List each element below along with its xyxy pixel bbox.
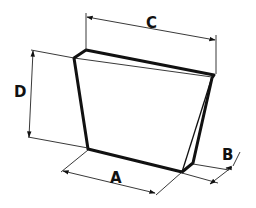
dimension-c: C: [86, 13, 216, 74]
b-extension-top: [193, 164, 229, 170]
label-a: A: [110, 169, 122, 187]
d-extension-bottom: [28, 137, 88, 148]
dimension-d: D: [14, 50, 88, 148]
a-extension-right: [156, 172, 182, 195]
block-outline: [74, 50, 214, 172]
label-b: B: [222, 146, 233, 164]
block-dimension-diagram: C D A B: [0, 0, 256, 208]
b-arrow-line: [210, 167, 232, 184]
d-arrow-line: [29, 51, 33, 137]
a-arrow-line: [63, 171, 155, 193]
d-extension-top: [31, 50, 74, 58]
b-lead-line: [233, 152, 240, 166]
diagram-canvas: C D A B: [0, 0, 256, 208]
label-d: D: [14, 83, 26, 101]
side-inner-edge: [182, 77, 212, 172]
a-extension-left: [61, 150, 88, 172]
tapered-block: [74, 50, 214, 172]
label-c: C: [146, 14, 157, 32]
